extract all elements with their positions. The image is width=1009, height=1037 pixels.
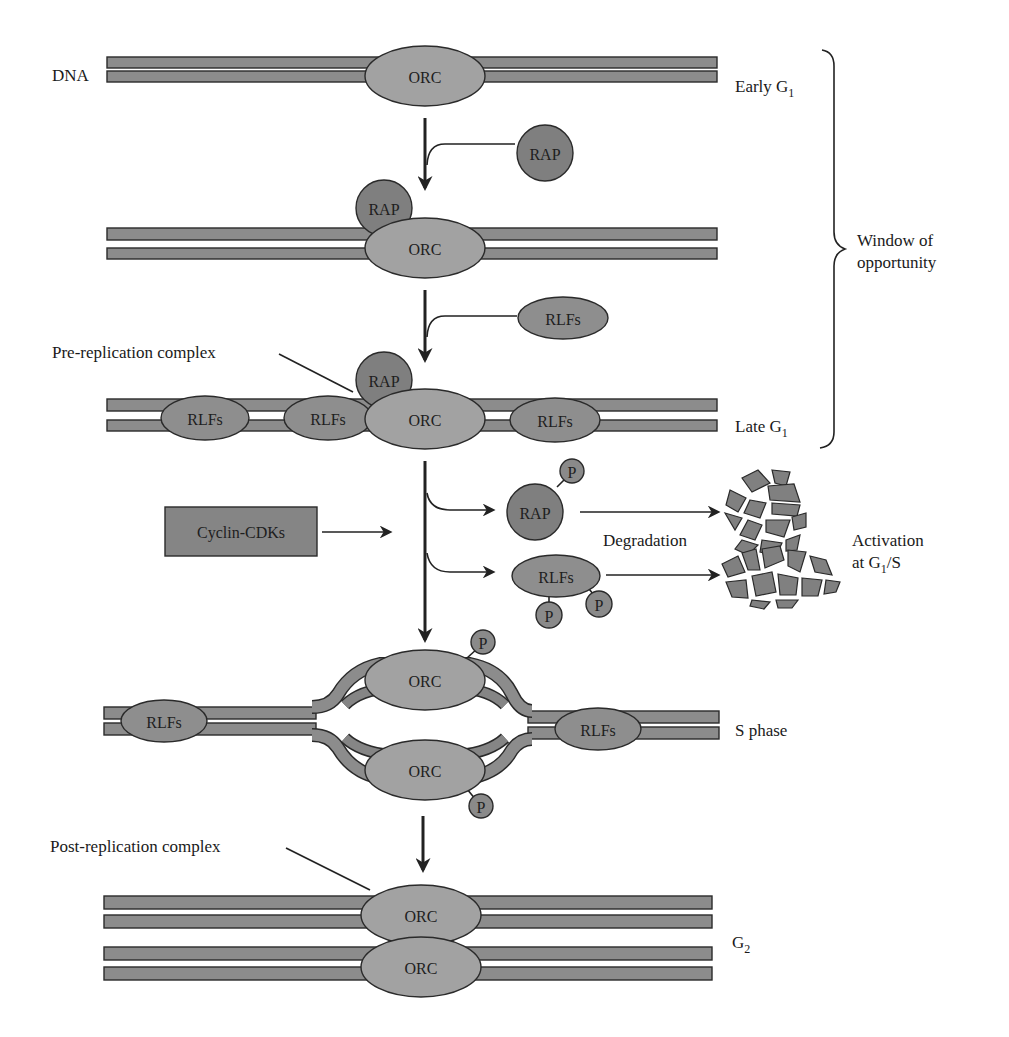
window-label-line1: Window of [857, 231, 934, 250]
rlfs-label: RLFs [310, 411, 346, 428]
degradation-label: Degradation [603, 531, 688, 550]
rlfs-label: RLFs [545, 311, 581, 328]
orc-label: ORC [409, 763, 442, 780]
post-replication-pointer [286, 848, 370, 890]
rap-label: RAP [368, 201, 399, 218]
orc-label: ORC [409, 412, 442, 429]
degraded-rlfs-fragments [722, 546, 840, 609]
cyclin-cdk-step: Cyclin-CDKs P RAP RLFs P P Degradation [165, 459, 924, 640]
rlfs-label: RLFs [538, 569, 574, 586]
phosphate-label: P [477, 799, 486, 816]
phosphate-label: P [479, 635, 488, 652]
branch-arrow-rap [427, 493, 493, 510]
orc-label: ORC [409, 69, 442, 86]
stage-late-g1: Pre-replication complex RLFs RLFs RLFs R… [52, 343, 788, 449]
rap-label: RAP [368, 373, 399, 390]
stage-label-s-phase: S phase [735, 721, 787, 740]
stage-s-phase: RLFs RLFs P ORC P ORC S phase [104, 630, 787, 818]
rlfs-label: RLFs [146, 714, 182, 731]
pre-replication-complex-label: Pre-replication complex [52, 343, 216, 362]
stage-early-g1: DNA ORC Early G1 [52, 46, 794, 106]
rlfs-binding-step: RLFs [425, 290, 608, 360]
phosphate-label: P [568, 464, 577, 481]
rlfs-label: RLFs [537, 413, 573, 430]
orc-label: ORC [405, 908, 438, 925]
rlfs-label: RLFs [580, 722, 616, 739]
stage-orc-rap: RAP ORC [107, 180, 717, 278]
pre-replication-pointer [279, 354, 353, 392]
activation-label-line2: at G1/S [852, 553, 901, 576]
dna-label: DNA [52, 66, 90, 85]
degraded-rap-fragments [725, 470, 806, 556]
rap-join-line [427, 144, 515, 165]
stage-label-g2: G2 [732, 933, 750, 956]
orc-label: ORC [405, 960, 438, 977]
window-of-opportunity-brace: Window of opportunity [820, 50, 937, 448]
phosphate-label: P [545, 608, 554, 625]
orc-label: ORC [409, 241, 442, 258]
branch-arrow-rlfs [427, 553, 493, 572]
replication-licensing-diagram: DNA ORC Early G1 RAP RAP ORC RLFs Pre-re… [0, 0, 1009, 1037]
orc-label: ORC [409, 673, 442, 690]
phosphate-label: P [595, 597, 604, 614]
rlfs-join-line [427, 316, 517, 337]
stage-label-early-g1: Early G1 [735, 77, 794, 100]
curly-brace-icon [820, 50, 845, 448]
rlfs-label: RLFs [187, 411, 223, 428]
post-replication-complex-label: Post-replication complex [50, 837, 221, 856]
stage-label-late-g1: Late G1 [735, 417, 788, 440]
stage-g2: Post-replication complex ORC ORC G2 [50, 837, 750, 997]
activation-label-line1: Activation [852, 531, 924, 550]
rap-binding-step: RAP [425, 118, 573, 188]
rap-label: RAP [529, 146, 560, 163]
window-label-line2: opportunity [857, 253, 937, 272]
rap-label: RAP [519, 505, 550, 522]
cyclin-cdks-label: Cyclin-CDKs [197, 524, 285, 542]
